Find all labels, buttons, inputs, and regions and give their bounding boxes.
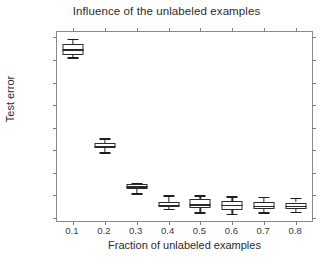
y-tick-mark bbox=[53, 105, 57, 106]
x-tick-mark bbox=[105, 28, 106, 32]
boxplot-cap-upper bbox=[259, 197, 270, 199]
y-tick-mark bbox=[312, 105, 316, 106]
x-tick-label: 0.2 bbox=[97, 225, 110, 236]
x-tick-label: 0.8 bbox=[288, 225, 301, 236]
y-tick-mark bbox=[312, 37, 316, 38]
boxplot-cap-upper bbox=[227, 196, 238, 198]
boxplot-cap-lower bbox=[67, 57, 78, 59]
y-tick-mark bbox=[312, 83, 316, 84]
boxplot-median bbox=[62, 49, 83, 50]
boxplot-cap-upper bbox=[67, 39, 78, 41]
y-tick-mark bbox=[312, 173, 316, 174]
boxplot-median bbox=[94, 146, 115, 147]
boxplot-cap-lower bbox=[227, 214, 238, 216]
boxplot-median bbox=[286, 206, 307, 207]
x-tick-mark bbox=[296, 28, 297, 32]
boxplot-cap-upper bbox=[195, 195, 206, 197]
y-tick-mark bbox=[53, 37, 57, 38]
x-tick-mark bbox=[232, 28, 233, 32]
boxplot-cap-lower bbox=[163, 209, 174, 211]
x-tick-mark bbox=[264, 28, 265, 32]
y-tick-mark bbox=[53, 83, 57, 84]
x-tick-mark bbox=[137, 28, 138, 32]
boxplot-median bbox=[158, 205, 179, 206]
y-tick-mark bbox=[53, 128, 57, 129]
x-tick-label: 0.4 bbox=[161, 225, 174, 236]
boxplot-cap-lower bbox=[99, 152, 110, 154]
x-tick-label: 0.6 bbox=[225, 225, 238, 236]
boxplot-median bbox=[254, 206, 275, 207]
y-tick-mark bbox=[53, 218, 57, 219]
y-tick-mark bbox=[53, 150, 57, 151]
boxplot-median bbox=[222, 205, 243, 206]
chart-figure: Influence of the unlabeled examples Test… bbox=[0, 0, 333, 266]
boxplot-median bbox=[190, 204, 211, 205]
boxplot-cap-lower bbox=[291, 212, 302, 214]
y-axis-label: Test error bbox=[4, 59, 16, 139]
x-tick-label: 0.7 bbox=[257, 225, 270, 236]
boxplot-cap-lower bbox=[259, 212, 270, 214]
boxplot-cap-upper bbox=[291, 198, 302, 200]
x-tick-mark bbox=[169, 28, 170, 32]
y-tick-mark bbox=[312, 60, 316, 61]
x-axis-label: Fraction of unlabeled examples bbox=[56, 239, 313, 251]
boxplot-cap-lower bbox=[131, 193, 142, 195]
y-tick-mark bbox=[312, 150, 316, 151]
boxplot-cap-upper bbox=[163, 195, 174, 197]
y-tick-mark bbox=[312, 128, 316, 129]
plot-area: 0.050.10.150.20.250.30.350.40.45 bbox=[56, 31, 313, 222]
boxplot-median bbox=[126, 186, 147, 187]
x-tick-mark bbox=[73, 28, 74, 32]
plot-inner: 0.050.10.150.20.250.30.350.40.45 bbox=[57, 32, 312, 221]
y-tick-mark bbox=[53, 60, 57, 61]
y-tick-mark bbox=[312, 218, 316, 219]
x-tick-mark bbox=[200, 28, 201, 32]
x-tick-label: 0.1 bbox=[65, 225, 78, 236]
x-tick-label: 0.5 bbox=[193, 225, 206, 236]
x-tick-label: 0.3 bbox=[129, 225, 142, 236]
boxplot-cap-upper bbox=[99, 138, 110, 140]
y-tick-mark bbox=[53, 195, 57, 196]
y-tick-mark bbox=[53, 173, 57, 174]
boxplot-cap-lower bbox=[195, 212, 206, 214]
chart-title: Influence of the unlabeled examples bbox=[0, 5, 333, 17]
y-tick-mark bbox=[312, 195, 316, 196]
